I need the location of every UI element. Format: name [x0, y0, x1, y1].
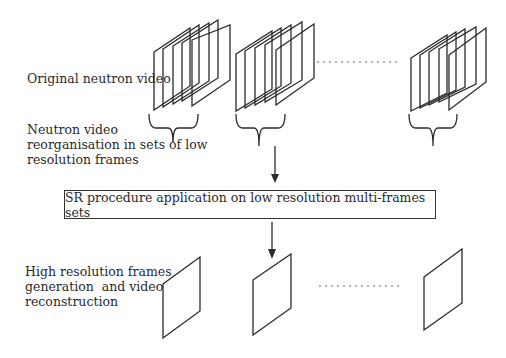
ellipsis-dots-bottom [319, 285, 399, 287]
ellipsis-dots-top [317, 61, 397, 63]
diagram-canvas: Original neutron video Neutron video reo… [0, 0, 506, 358]
label-high-res: High resolution frames generation and vi… [25, 264, 172, 309]
brace-2 [236, 114, 285, 146]
output-frame-2 [253, 254, 291, 335]
frame-stack-n [411, 27, 486, 111]
arrowhead-1 [271, 174, 279, 183]
brace-n [409, 114, 457, 146]
sr-procedure-label: SR procedure application on low resoluti… [65, 190, 435, 220]
label-original-video: Original neutron video [27, 71, 171, 86]
frame-stack-1 [154, 20, 230, 110]
arrowhead-2 [268, 249, 276, 259]
label-reorganisation: Neutron video reorganisation in sets of … [27, 122, 207, 167]
frame-stack-2 [236, 22, 314, 111]
output-frame-n [424, 249, 462, 330]
sr-procedure-box: SR procedure application on low resoluti… [64, 190, 436, 219]
